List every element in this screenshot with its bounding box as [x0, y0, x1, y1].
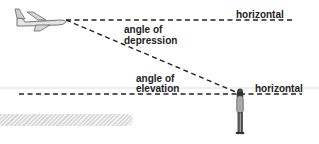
airplane-icon [15, 9, 66, 31]
label-horizontal-bottom: horizontal [255, 83, 303, 94]
label-angle-of-depression-1: angle of [124, 24, 162, 35]
person-icon [236, 89, 245, 135]
angle-diagram: horizontal angle of depression angle of … [0, 0, 319, 144]
label-horizontal-top: horizontal [236, 9, 284, 20]
label-angle-of-depression-2: depression [124, 35, 177, 46]
hatched-ground-bar [0, 114, 133, 126]
label-angle-of-elevation-2: elevation [136, 83, 179, 94]
